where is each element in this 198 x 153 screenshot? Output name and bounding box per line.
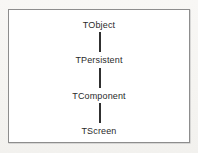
connector-tcomponent-tscreen [99, 103, 101, 123]
connector-tobject-tpersistent [99, 32, 101, 52]
class-node-tobject: TObject [8, 20, 190, 30]
connector-tpersistent-tcomponent [99, 68, 101, 88]
class-node-tscreen: TScreen [8, 126, 190, 136]
class-node-tcomponent: TComponent [8, 91, 190, 101]
inheritance-chain: TObject TPersistent TComponent TScreen [8, 9, 190, 143]
class-hierarchy-diagram: TObject TPersistent TComponent TScreen [0, 0, 198, 153]
class-node-tpersistent: TPersistent [8, 55, 190, 65]
